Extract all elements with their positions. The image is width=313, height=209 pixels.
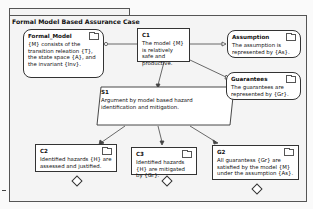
edge-marker xyxy=(2,190,6,191)
folder-icon xyxy=(182,151,192,158)
node-guarantees[interactable]: Guarantees The guarantees are represente… xyxy=(226,72,301,100)
folder-icon xyxy=(89,33,99,40)
node-c2[interactable]: C2 Identified hazards {H} are assessed a… xyxy=(35,144,117,172)
node-g2[interactable]: G2 All guarantess {Gr} are satisfied by … xyxy=(212,145,299,180)
node-c3[interactable]: C3 Identified hazards {H} are mitigated … xyxy=(131,147,197,175)
node-formal-model[interactable]: Formal_Model {M} consists of the transit… xyxy=(23,29,104,78)
node-assumption[interactable]: Assumption The assumption is represented… xyxy=(227,30,301,58)
node-text: All guarantess {Gr} are satisfied by the… xyxy=(217,157,293,176)
node-text: The guarantees are represented by {Gr}. xyxy=(231,84,289,96)
folder-icon xyxy=(284,149,294,156)
node-text: The model {M} is relatively safe and pro… xyxy=(142,40,184,65)
folder-icon xyxy=(286,76,296,83)
node-s1[interactable]: S1 Argument by model based hazard identi… xyxy=(101,89,229,110)
node-id: C1 xyxy=(142,32,185,38)
folder-icon xyxy=(286,34,296,41)
node-text: Identified hazards {H} are mitigated by … xyxy=(136,159,185,178)
node-id: G2 xyxy=(217,149,294,155)
node-text: The assumption is represented by {As}. xyxy=(232,42,290,54)
node-id: S1 xyxy=(101,89,229,95)
folder-icon xyxy=(102,148,112,155)
node-c1[interactable]: C1 The model {M} is relatively safe and … xyxy=(137,28,190,62)
node-text: Argument by model based hazard identific… xyxy=(101,97,193,109)
node-text: Identified hazards {H} are assessed and … xyxy=(40,156,111,168)
node-text: {M} consists of the transition releation… xyxy=(28,41,96,66)
